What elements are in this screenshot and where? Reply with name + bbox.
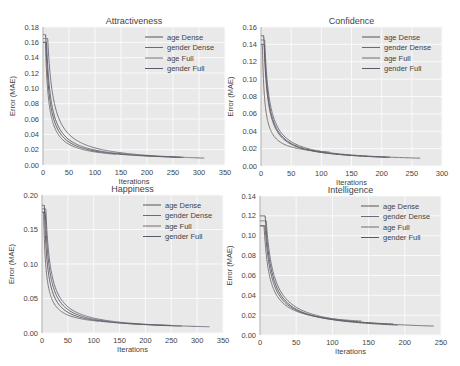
x-tick-label: 100 — [315, 169, 328, 178]
x-axis-label: Iterations — [117, 345, 148, 354]
x-tick-label: 300 — [193, 168, 206, 177]
x-tick-label: 250 — [165, 336, 178, 345]
legend-label: gender Full — [384, 64, 422, 73]
legend-label: age Full — [165, 222, 192, 231]
y-tick-label: 0.20 — [23, 191, 38, 200]
legend-label: gender Dense — [165, 211, 212, 220]
x-tick-label: 150 — [115, 168, 128, 177]
x-tick-label: 0 — [259, 169, 263, 178]
y-axis-label: Error (MAE) — [8, 76, 17, 117]
legend-label: age Full — [167, 54, 194, 63]
x-tick-label: 50 — [64, 336, 72, 345]
y-tick-label: 0.04 — [24, 130, 39, 139]
x-tick-label: 150 — [362, 338, 375, 347]
y-tick-label: 0.14 — [241, 192, 256, 201]
legend-label: gender Dense — [167, 43, 214, 52]
y-tick-label: 0.06 — [241, 271, 256, 280]
legend-label: gender Dense — [383, 212, 430, 221]
chart-title: Attractiveness — [106, 16, 163, 26]
chart-title: Confidence — [329, 16, 375, 26]
x-tick-label: 100 — [87, 336, 100, 345]
y-tick-label: 0.06 — [24, 115, 39, 124]
y-tick-label: 0.15 — [23, 225, 38, 234]
x-tick-label: 100 — [326, 338, 339, 347]
figure-canvas: 0501001502002503003500.000.020.040.060.0… — [0, 0, 460, 366]
x-tick-label: 150 — [345, 169, 358, 178]
y-tick-label: 0.10 — [24, 84, 39, 93]
legend-label: age Dense — [165, 201, 201, 210]
x-tick-label: 200 — [139, 336, 152, 345]
y-tick-label: 0.14 — [24, 53, 39, 62]
y-axis-label: Error (MAE) — [7, 244, 16, 285]
y-tick-label: 0.04 — [242, 127, 257, 136]
x-tick-label: 250 — [435, 338, 448, 347]
y-tick-label: 0.06 — [242, 109, 257, 118]
legend-label: age Dense — [167, 33, 203, 42]
x-tick-label: 200 — [141, 168, 154, 177]
legend-label: age Full — [384, 54, 411, 63]
x-tick-label: 200 — [399, 338, 412, 347]
chart-happiness: 0501001502002503003500.000.050.100.150.2… — [7, 184, 229, 354]
x-tick-label: 350 — [219, 168, 232, 177]
x-tick-label: 0 — [41, 168, 45, 177]
y-tick-label: 0.10 — [241, 231, 256, 240]
y-tick-label: 0.12 — [242, 57, 257, 66]
legend-label: gender Full — [383, 233, 421, 242]
x-tick-label: 250 — [167, 168, 180, 177]
y-tick-label: 0.12 — [24, 69, 39, 78]
legend-label: gender Full — [165, 232, 203, 241]
y-tick-label: 0.14 — [242, 40, 257, 49]
x-tick-label: 50 — [292, 338, 300, 347]
x-tick-label: 50 — [287, 169, 295, 178]
x-tick-label: 300 — [191, 336, 204, 345]
y-tick-label: 0.05 — [23, 294, 38, 303]
y-axis-label: Error (MAE) — [225, 245, 234, 286]
y-tick-label: 0.00 — [23, 329, 38, 338]
y-tick-label: 0.18 — [24, 23, 39, 32]
y-tick-label: 0.02 — [242, 144, 257, 153]
y-tick-label: 0.16 — [242, 23, 257, 32]
x-tick-label: 250 — [406, 169, 419, 178]
y-tick-label: 0.00 — [241, 331, 256, 340]
y-tick-label: 0.02 — [24, 145, 39, 154]
legend-label: age Dense — [383, 202, 419, 211]
y-tick-label: 0.08 — [241, 251, 256, 260]
y-tick-label: 0.08 — [242, 92, 257, 101]
x-tick-label: 50 — [65, 168, 73, 177]
y-tick-label: 0.10 — [242, 75, 257, 84]
y-tick-label: 0.00 — [242, 162, 257, 171]
legend-label: gender Dense — [384, 43, 431, 52]
y-tick-label: 0.02 — [241, 311, 256, 320]
chart-intelligence: 0501001502002500.000.020.040.060.080.100… — [225, 185, 447, 356]
legend-label: age Full — [383, 223, 410, 232]
x-tick-label: 200 — [375, 169, 388, 178]
chart-title: Happiness — [111, 184, 154, 194]
chart-confidence: 0501001502002503000.000.020.040.060.080.… — [226, 16, 448, 187]
legend-label: gender Full — [167, 64, 205, 73]
legend-label: age Dense — [384, 33, 420, 42]
x-tick-label: 300 — [436, 169, 449, 178]
y-tick-label: 0.12 — [241, 211, 256, 220]
y-tick-label: 0.16 — [24, 38, 39, 47]
x-tick-label: 100 — [89, 168, 102, 177]
y-tick-label: 0.10 — [23, 260, 38, 269]
y-tick-label: 0.04 — [241, 291, 256, 300]
x-axis-label: Iterations — [335, 347, 366, 356]
x-tick-label: 350 — [217, 336, 230, 345]
y-axis-label: Error (MAE) — [226, 76, 235, 117]
x-tick-label: 0 — [40, 336, 44, 345]
chart-attractiveness: 0501001502002503003500.000.020.040.060.0… — [8, 16, 231, 186]
y-tick-label: 0.08 — [24, 99, 39, 108]
x-tick-label: 0 — [258, 338, 262, 347]
y-tick-label: 0.00 — [24, 161, 39, 170]
x-tick-label: 150 — [113, 336, 126, 345]
chart-title: Intelligence — [328, 185, 374, 195]
